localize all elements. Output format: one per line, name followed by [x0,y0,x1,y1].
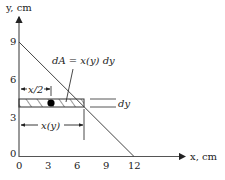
half-width-dimension: x/2 [21,84,51,96]
diagram-canvas: y, cm 9 6 3 0 x, cm 0 3 6 9 12 dy dA = x… [0,0,225,180]
y-tick-3: 3 [10,112,16,123]
dA-annotation: dA = x(y) dy [52,55,115,102]
x-tick-12: 12 [128,160,141,171]
area-strip [19,99,84,107]
y-tick-0: 0 [10,148,16,159]
y-tick-9: 9 [10,36,16,47]
centroid-dot [47,99,54,106]
x-tick-3: 3 [45,160,51,171]
dA-label: dA = x(y) dy [52,55,115,66]
x-axis-label: x, cm [190,151,218,162]
half-width-label: x/2 [28,84,43,95]
dy-label: dy [118,98,130,109]
width-dimension: x(y) [21,109,84,140]
x-axis: x, cm 0 3 6 9 12 [16,151,218,171]
x-tick-6: 6 [74,160,80,171]
width-label: x(y) [41,120,60,131]
x-tick-9: 9 [103,160,109,171]
y-tick-6: 6 [10,74,16,85]
dy-indicator: dy [90,98,130,109]
y-axis: y, cm 9 6 3 0 [5,2,32,159]
y-axis-label: y, cm [5,2,32,13]
x-tick-0: 0 [16,160,22,171]
